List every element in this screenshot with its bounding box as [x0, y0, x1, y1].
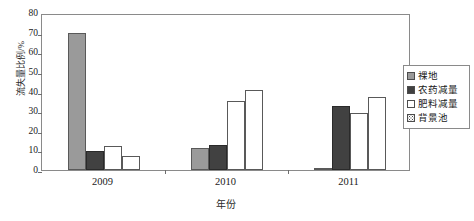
y-axis-tick-label: 40 [16, 88, 38, 98]
bar-2009-series-3 [122, 156, 140, 170]
bar-2011-series-1 [332, 106, 350, 170]
y-axis-tick-mark [38, 133, 42, 134]
y-axis-tick-mark [38, 152, 42, 153]
y-axis-tick-labels: 01020304050607080 [16, 0, 38, 221]
y-axis-tick-label: 70 [16, 29, 38, 39]
y-axis-tick-label: 20 [16, 127, 38, 137]
legend-item[interactable]: 背景池 [407, 111, 466, 125]
bar-2010-series-3 [245, 90, 263, 170]
bar-chart-figure: 流失量比例/% 01020304050607080 年份 裸地农药减量肥料减量背… [0, 0, 474, 221]
legend-item[interactable]: 农药减量 [407, 83, 466, 97]
x-axis-tick-label: 2009 [68, 176, 138, 187]
legend-item-label: 裸地 [418, 71, 438, 81]
bar-2010-series-2 [227, 101, 245, 170]
y-axis-tick-label: 10 [16, 147, 38, 157]
legend-swatch-icon [407, 100, 415, 108]
y-axis-tick-label: 0 [16, 166, 38, 176]
y-axis-tick-mark [38, 172, 42, 173]
legend-item-label: 背景池 [418, 113, 448, 123]
x-axis-tick-label: 2010 [191, 176, 261, 187]
bar-2011-series-0 [314, 168, 332, 170]
y-axis-tick-mark [38, 74, 42, 75]
bar-2010-series-1 [209, 145, 227, 170]
x-axis-tick-mark [165, 170, 166, 174]
bar-2009-series-0 [68, 33, 86, 170]
x-axis-tick-mark [288, 170, 289, 174]
y-axis-tick-mark [38, 94, 42, 95]
legend-item[interactable]: 裸地 [407, 69, 466, 83]
legend-item[interactable]: 肥料减量 [407, 97, 466, 111]
bar-2011-series-3 [368, 97, 386, 170]
x-axis-tick-label: 2011 [314, 176, 384, 187]
legend-swatch-icon [407, 72, 415, 80]
y-axis-tick-label: 60 [16, 49, 38, 59]
y-axis-tick-mark [38, 35, 42, 36]
y-axis-tick-mark [38, 54, 42, 55]
bar-2011-series-2 [350, 113, 368, 170]
legend-item-label: 农药减量 [418, 85, 458, 95]
plot-area [41, 14, 410, 171]
bar-2009-series-2 [104, 146, 122, 170]
y-axis-tick-mark [38, 113, 42, 114]
legend-swatch-icon [407, 86, 415, 94]
legend-swatch-icon [407, 114, 415, 122]
legend-item-label: 肥料减量 [418, 99, 458, 109]
bar-2010-series-0 [191, 148, 209, 170]
chart-legend: 裸地农药减量肥料减量背景池 [403, 65, 470, 129]
bar-2009-series-1 [86, 151, 104, 170]
y-axis-tick-label: 30 [16, 107, 38, 117]
x-axis-title: 年份 [41, 196, 410, 211]
y-axis-tick-label: 50 [16, 68, 38, 78]
y-axis-tick-label: 80 [16, 9, 38, 19]
